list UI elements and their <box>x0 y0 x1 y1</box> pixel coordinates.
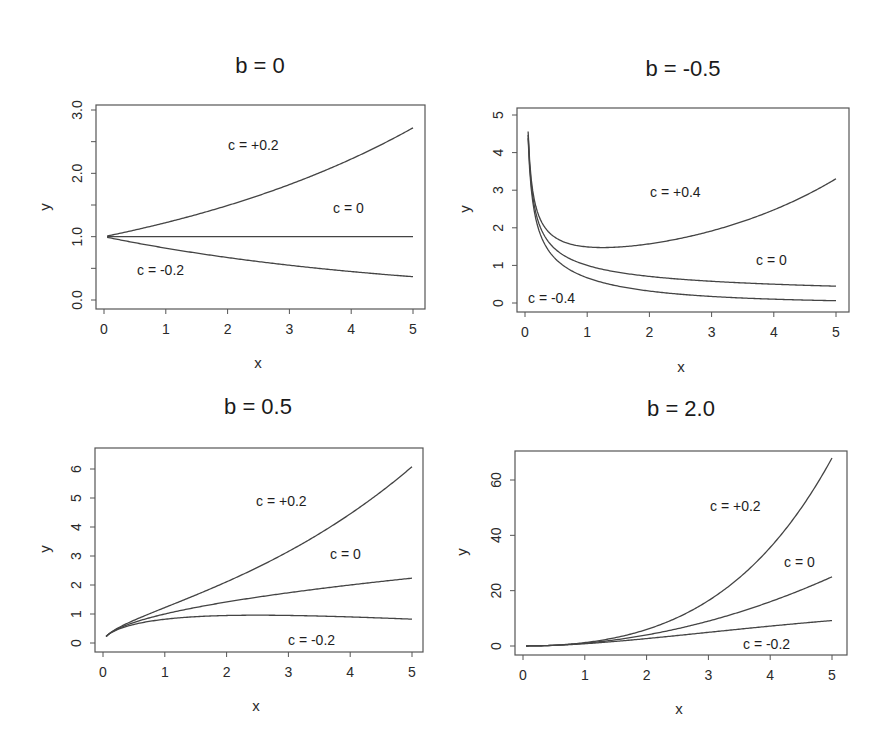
panel-b-0: b = 0 0123450.01.02.03.0 c = +0.2c = 0c … <box>36 53 425 371</box>
x-tick-label: 1 <box>162 321 170 337</box>
y-tick-label: 0 <box>488 642 504 650</box>
y-tick-label: 3.0 <box>69 100 85 120</box>
plot-frame <box>517 108 849 312</box>
curve-label: c = +0.2 <box>228 137 279 153</box>
y-tick-label: 3 <box>68 552 84 560</box>
panel-b-neg-0.5: b = -0.5 012345012345 c = +0.4c = 0c = -… <box>456 56 849 375</box>
panel-title: b = -0.5 <box>645 56 720 81</box>
x-axis-label: x <box>252 697 260 714</box>
y-tick-label: 0 <box>68 639 84 647</box>
panel-title: b = 0 <box>235 53 285 78</box>
curves <box>528 131 836 300</box>
curve-annotations: c = +0.2c = 0c = -0.2 <box>137 137 364 278</box>
y-tick-label: 1 <box>490 261 506 269</box>
y-tick-label: 60 <box>488 472 504 488</box>
curve-annotations: c = +0.2c = 0c = -0.2 <box>256 493 361 648</box>
x-tick-label: 1 <box>583 324 591 340</box>
y-tick-label: 5 <box>68 494 84 502</box>
curve-label: c = 0 <box>756 252 787 268</box>
curve-label: c = +0.4 <box>650 184 701 200</box>
figure-canvas: b = 0 0123450.01.02.03.0 c = +0.2c = 0c … <box>0 0 886 751</box>
curve-label: c = -0.2 <box>137 262 184 278</box>
x-axis-label: x <box>677 358 685 375</box>
x-tick-label: 0 <box>100 321 108 337</box>
curve-label: c = +0.2 <box>256 493 307 509</box>
curve-label: c = -0.4 <box>528 290 575 306</box>
x-tick-label: 0 <box>521 324 529 340</box>
y-tick-label: 2 <box>490 224 506 232</box>
x-tick-label: 2 <box>643 667 651 683</box>
panel-title: b = 2.0 <box>647 396 715 421</box>
curves <box>526 458 832 646</box>
panel-b-2.0: b = 2.0 0123450204060 c = +0.2c = 0c = -… <box>453 396 847 717</box>
curve-annotations: c = +0.4c = 0c = -0.4 <box>528 184 787 306</box>
x-tick-label: 5 <box>409 321 417 337</box>
y-tick-label: 4 <box>68 523 84 531</box>
curve-c--0.2 <box>106 615 412 636</box>
x-tick-label: 1 <box>161 664 169 680</box>
y-tick-label: 2.0 <box>69 163 85 183</box>
panel-title: b = 0.5 <box>224 394 292 419</box>
curve-annotations: c = +0.2c = 0c = -0.2 <box>710 498 815 652</box>
x-tick-label: 4 <box>770 324 778 340</box>
curve-c-0.2 <box>526 458 832 646</box>
y-axis-label: y <box>453 548 470 556</box>
curve-label: c = 0 <box>333 200 364 216</box>
x-tick-label: 4 <box>346 664 354 680</box>
x-tick-label: 0 <box>99 664 107 680</box>
x-tick-label: 3 <box>285 664 293 680</box>
y-tick-label: 0 <box>490 299 506 307</box>
y-axis-label: y <box>36 203 53 211</box>
curve-label: c = 0 <box>330 546 361 562</box>
y-tick-label: 20 <box>488 583 504 599</box>
x-tick-label: 2 <box>646 324 654 340</box>
curve-c-0 <box>528 135 836 286</box>
panel-b-0.5: b = 0.5 0123450123456 c = +0.2c = 0c = -… <box>36 394 423 714</box>
curve-label: c = 0 <box>784 554 815 570</box>
plot-frame <box>95 448 423 652</box>
curve-label: c = +0.2 <box>710 498 761 514</box>
y-tick-label: 4 <box>490 148 506 156</box>
x-tick-label: 0 <box>519 667 527 683</box>
y-tick-label: 1 <box>68 610 84 618</box>
x-axis-label: x <box>254 354 262 371</box>
curve-c-0 <box>106 578 412 636</box>
x-tick-label: 3 <box>705 667 713 683</box>
x-tick-label: 5 <box>832 324 840 340</box>
y-tick-label: 0.0 <box>69 290 85 310</box>
y-tick-label: 3 <box>490 186 506 194</box>
x-tick-label: 2 <box>224 321 232 337</box>
y-tick-label: 5 <box>490 111 506 119</box>
y-tick-label: 40 <box>488 527 504 543</box>
y-axis-label: y <box>456 205 473 213</box>
x-tick-label: 4 <box>766 667 774 683</box>
x-tick-label: 4 <box>347 321 355 337</box>
plot-frame <box>515 451 847 655</box>
x-axis-label: x <box>675 700 683 717</box>
x-tick-label: 2 <box>223 664 231 680</box>
y-tick-label: 6 <box>68 465 84 473</box>
plot-frame <box>96 105 425 309</box>
axis-ticks: 0123450123456 <box>68 465 416 680</box>
x-tick-label: 3 <box>708 324 716 340</box>
x-tick-label: 5 <box>828 667 836 683</box>
curve-label: c = -0.2 <box>743 636 790 652</box>
curve-c--0.4 <box>528 138 836 301</box>
axis-ticks: 0123450.01.02.03.0 <box>69 100 417 337</box>
y-tick-label: 2 <box>68 581 84 589</box>
y-tick-label: 1.0 <box>69 227 85 247</box>
x-tick-label: 1 <box>581 667 589 683</box>
x-tick-label: 3 <box>286 321 294 337</box>
curve-label: c = -0.2 <box>288 632 335 648</box>
x-tick-label: 5 <box>408 664 416 680</box>
y-axis-label: y <box>36 545 53 553</box>
